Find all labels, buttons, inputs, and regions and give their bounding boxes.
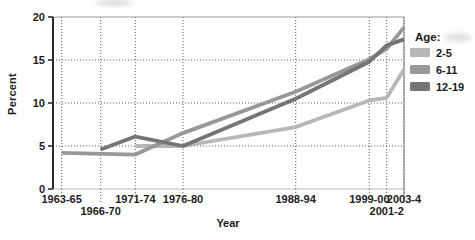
- x-tick-label: 1999-00: [349, 193, 389, 205]
- legend-item-12-19: 12-19: [410, 81, 474, 92]
- y-axis-title: Percent: [6, 71, 20, 117]
- legend-title: Age:: [415, 31, 474, 43]
- x-tick-label: 1988-94: [275, 193, 316, 205]
- legend-item-2-5: 2-5: [410, 47, 474, 58]
- legend: Age: 2-5 6-11 12-19: [410, 31, 474, 98]
- series-line-6-11: [62, 27, 404, 154]
- x-tick-label: 2001-2: [370, 205, 404, 217]
- legend-label: 2-5: [436, 47, 452, 59]
- y-tick-label: 10: [33, 97, 45, 109]
- legend-swatch-6-11: [410, 65, 430, 74]
- legend-swatch-12-19: [410, 82, 430, 91]
- legend-label: 12-19: [436, 81, 464, 93]
- x-tick-label: 2003-4: [387, 193, 422, 205]
- y-tick-label: 20: [33, 11, 45, 23]
- legend-item-6-11: 6-11: [410, 64, 474, 75]
- overweight-prevalence-chart: Percent 051015201963-651966-701971-74197…: [0, 0, 475, 240]
- legend-swatch-2-5: [410, 48, 430, 57]
- x-tick-label: 1971-74: [115, 193, 156, 205]
- x-tick-label: 1966-70: [80, 205, 120, 217]
- y-tick-label: 5: [39, 140, 45, 152]
- x-tick-label: 1976-80: [163, 193, 203, 205]
- legend-label: 6-11: [436, 64, 457, 76]
- plot-area: 051015201963-651966-701971-741976-801988…: [0, 0, 475, 240]
- x-axis-title: Year: [206, 217, 250, 229]
- y-tick-label: 15: [33, 54, 45, 66]
- x-tick-label: 1963-65: [41, 193, 81, 205]
